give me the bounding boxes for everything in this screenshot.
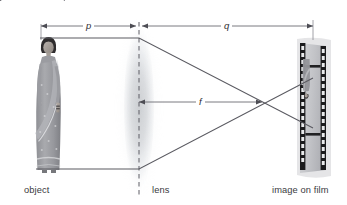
ray-and-dimension-lines [0, 0, 347, 205]
label-lens: lens [152, 185, 169, 195]
lens-ray-diagram-figure: ject is the lens p and the distance from… [0, 0, 347, 205]
ray-from-feet [36, 78, 313, 169]
dimension-label-p: p [83, 21, 94, 31]
ray-from-head [40, 38, 313, 128]
dimension-label-f: f [196, 97, 205, 107]
label-object: object [24, 185, 49, 195]
dimension-label-q: q [221, 21, 232, 31]
label-image-on-film: image on film [272, 185, 329, 195]
